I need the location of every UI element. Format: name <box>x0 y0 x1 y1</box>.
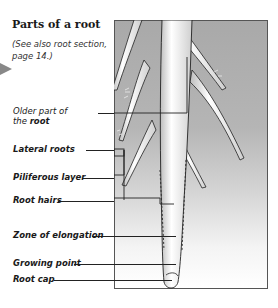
label-piliferous-layer: Piliferous layer <box>13 172 85 182</box>
growing-point-leader-line <box>74 264 176 265</box>
label-zone-of-elongation: Zone of elongation <box>13 230 104 240</box>
root-hairs-leader-line <box>58 201 114 202</box>
page-turn-arrow-icon <box>0 63 12 75</box>
lateral-root <box>119 60 150 141</box>
label-growing-point: Growing point <box>13 258 81 268</box>
label-older-part: Older part of the root <box>13 106 67 126</box>
root-cap-leader-line <box>54 280 172 281</box>
lateral-roots-leader-line <box>86 150 114 151</box>
label-root-hairs: Root hairs <box>13 195 62 205</box>
diagram-title: Parts of a root <box>12 18 100 31</box>
label-root-cap: Root cap <box>13 274 55 284</box>
cross-reference-note: (See also root section, page 14.) <box>12 38 122 62</box>
older-part-leader-line <box>98 113 114 114</box>
piliferous-layer-leader-line <box>82 178 114 179</box>
label-lateral-roots: Lateral roots <box>13 144 75 154</box>
zone-of-elongation-leader-line <box>92 236 176 237</box>
root-illustration <box>114 20 268 289</box>
